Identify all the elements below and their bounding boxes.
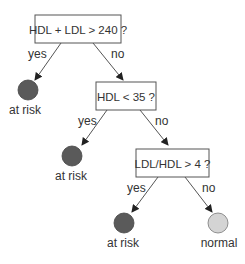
leaf-label: normal	[201, 236, 238, 250]
edge-label: yes	[78, 114, 97, 128]
leaf-label: at risk	[55, 169, 88, 183]
question-label: HDL + LDL > 240 ?	[29, 24, 127, 36]
edge-label: no	[155, 114, 169, 128]
leaf-node-at-risk-2: at risk	[55, 146, 88, 183]
leaf-label: at risk	[107, 236, 140, 250]
edge-label: no	[111, 47, 125, 61]
leaf-node-at-risk-1: at risk	[9, 80, 42, 117]
leaf-node-normal: normal	[201, 213, 238, 250]
edge-label: yes	[28, 47, 47, 61]
question-label: HDL < 35 ?	[97, 91, 155, 103]
question-label: LDL/HDL > 4 ?	[135, 158, 211, 170]
leaf-node-at-risk-3: at risk	[107, 213, 140, 250]
edge-label: no	[202, 181, 216, 195]
edge-label: yes	[127, 181, 146, 195]
question-node-q2: HDL < 35 ?	[96, 82, 156, 110]
question-node-q1: HDL + LDL > 240 ?	[29, 15, 127, 43]
edges	[35, 43, 212, 212]
question-node-q3: LDL/HDL > 4 ?	[135, 149, 211, 177]
decision-tree-diagram: yes no yes no yes no HDL + LDL > 240 ? H…	[0, 0, 245, 264]
leaf-label: at risk	[9, 103, 42, 117]
